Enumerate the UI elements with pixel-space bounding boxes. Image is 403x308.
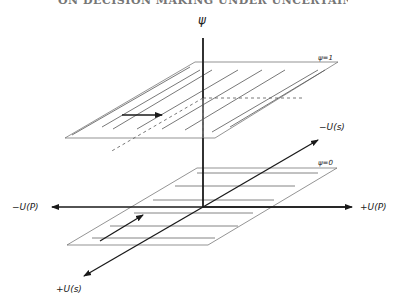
utility-space-diagram: ψ ψ=1 −U(s) ψ=0 −U(P) +U(P) +U(s)	[0, 0, 403, 308]
figure-page: ON DECISION MAKING UNDER UNCERTAINTY	[0, 0, 403, 308]
lower-plane-label: ψ=0	[318, 159, 333, 167]
upper-plane-psi-1	[65, 62, 338, 152]
horizontal-axis-positive-label: +U(P)	[360, 202, 387, 212]
depth-axis-positive-label: +U(s)	[56, 284, 82, 294]
depth-axis-negative-label: −U(s)	[319, 122, 345, 132]
psi-axis-label: ψ	[198, 13, 207, 27]
depth-axis-negative	[203, 140, 318, 207]
horizontal-axis-negative-label: −U(P)	[12, 202, 39, 212]
depth-axis-positive	[84, 207, 203, 276]
lower-plane-arrow-icon	[100, 215, 143, 241]
upper-plane-label: ψ=1	[318, 54, 333, 62]
